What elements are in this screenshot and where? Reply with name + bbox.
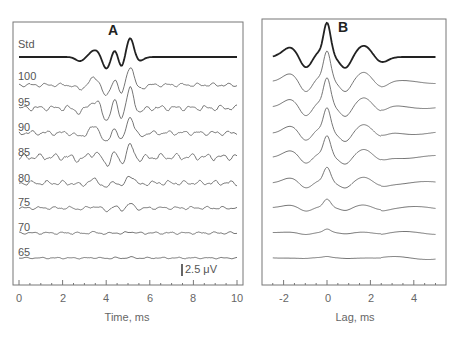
ccf-trace-6 — [273, 199, 436, 211]
panel-b-ticks — [273, 280, 436, 285]
trace-2 — [19, 87, 237, 121]
trace-6 — [19, 203, 237, 211]
trace-label: 90 — [18, 121, 30, 133]
x-tick: -2 — [279, 292, 289, 304]
trace-label: 65 — [18, 246, 30, 258]
trace-5 — [19, 176, 237, 187]
x-axis-label: Lag, ms — [335, 311, 374, 323]
ccf-trace-0 — [273, 23, 436, 68]
trace-7 — [19, 232, 237, 235]
trace-4 — [19, 144, 237, 167]
panel-a-traces — [19, 38, 237, 259]
x-tick: 4 — [411, 292, 417, 304]
ccf-trace-4 — [273, 136, 436, 164]
x-tick: 2 — [60, 292, 66, 304]
trace-3 — [19, 117, 237, 140]
trace-1 — [19, 68, 237, 96]
panel-a-title: A — [108, 22, 118, 38]
ccf-trace-2 — [273, 78, 436, 117]
trace-0 — [19, 38, 237, 68]
x-tick: 0 — [325, 292, 331, 304]
x-tick: 4 — [103, 292, 109, 304]
panel-a-frame — [13, 22, 243, 285]
panel-b-frame — [262, 19, 446, 285]
trace-label: 95 — [18, 96, 30, 108]
x-tick: 10 — [231, 292, 243, 304]
trace-label: 75 — [18, 196, 30, 208]
x-tick: 0 — [16, 292, 22, 304]
trace-8 — [19, 257, 237, 259]
panel-b-title: B — [338, 19, 348, 35]
trace-label: 100 — [18, 70, 36, 82]
x-axis-label: Time, ms — [105, 311, 150, 323]
x-tick: 8 — [190, 292, 196, 304]
x-tick: 6 — [147, 292, 153, 304]
ccf-trace-3 — [273, 108, 436, 142]
trace-label: 85 — [18, 146, 30, 158]
panel-b-traces — [273, 23, 436, 260]
trace-label: 70 — [18, 221, 30, 233]
trace-label: 80 — [18, 172, 30, 184]
panel-a-ticks — [19, 280, 237, 285]
x-tick: 2 — [368, 292, 374, 304]
ccf-trace-5 — [273, 167, 436, 188]
ccf-trace-7 — [273, 229, 436, 234]
ccf-trace-8 — [273, 257, 436, 260]
trace-label: Std — [18, 38, 35, 50]
scale-bar-label: 2.5 μV — [185, 263, 217, 275]
figure-graphics — [0, 0, 462, 339]
